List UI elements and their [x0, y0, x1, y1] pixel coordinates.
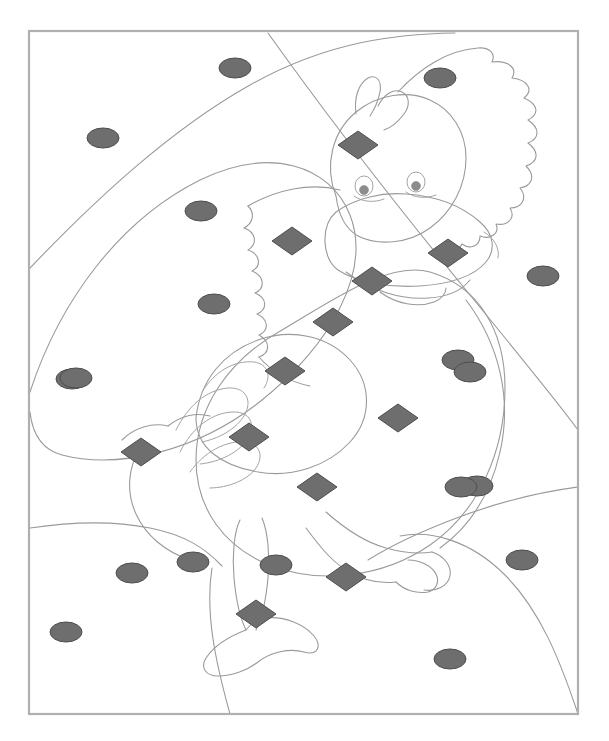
ellipse-marker: [260, 555, 292, 575]
ellipse-marker: [87, 128, 119, 148]
ellipse-marker: [177, 552, 209, 572]
ellipse-marker: [424, 68, 456, 88]
ellipse-marker: [185, 201, 217, 221]
coloring-artwork: .ln { fill:none; stroke:#9a9a9a; stroke-…: [0, 0, 609, 741]
ellipse-marker: [60, 368, 92, 388]
ellipse-marker: [527, 266, 559, 286]
ellipse-marker: [219, 58, 251, 78]
ellipse-marker: [454, 362, 486, 382]
ellipse-marker: [445, 477, 477, 497]
ellipse-marker: [506, 550, 538, 570]
worksheet-page: .ln { fill:none; stroke:#9a9a9a; stroke-…: [0, 0, 609, 741]
ellipse-marker: [434, 649, 466, 669]
ellipse-marker: [198, 294, 230, 314]
ellipse-marker: [50, 622, 82, 642]
ellipse-marker: [116, 563, 148, 583]
